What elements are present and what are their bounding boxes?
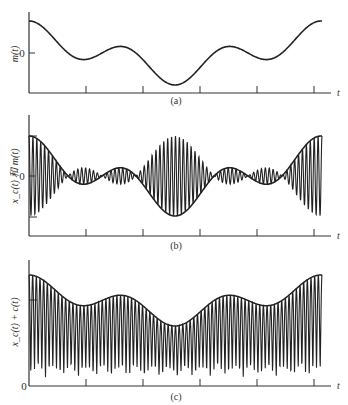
panel-c-zero-label: 0 bbox=[21, 380, 27, 392]
panel-a-zero-label: 0 bbox=[19, 47, 25, 59]
panel-b-caption: (b) bbox=[170, 240, 182, 252]
panel-c: 0 t (c) x_c(t) + c(t) bbox=[9, 260, 340, 403]
panel-a-ylabel: m(t) bbox=[9, 45, 21, 62]
panel-b-zero-label: 0 bbox=[19, 170, 25, 182]
panel-b-x-ticks bbox=[86, 229, 314, 236]
panel-b-ylabel: x_c(t) 和 m(t) bbox=[9, 148, 21, 205]
panel-a-t-label: t bbox=[337, 87, 340, 98]
panel-c-caption: (c) bbox=[170, 391, 181, 403]
panel-b-t-label: t bbox=[337, 230, 340, 241]
panel-a-caption: (a) bbox=[170, 95, 181, 107]
panel-b-modulated-signal bbox=[29, 136, 322, 216]
panel-a-message-curve bbox=[29, 21, 322, 85]
panel-a: 0 t (a) m(t) bbox=[9, 12, 340, 107]
panel-c-x-ticks bbox=[86, 379, 314, 386]
panel-b: 0 t (b) x_c(t) 和 m(t) bbox=[9, 115, 340, 252]
panel-c-ylabel: x_c(t) + c(t) bbox=[9, 297, 21, 348]
panel-a-x-ticks bbox=[86, 86, 314, 93]
panel-c-envelope bbox=[29, 275, 322, 326]
panel-c-t-label: t bbox=[337, 380, 340, 391]
figure: 0 t (a) m(t) 0 t (b) x_c(t) 和 m(t) 0 t (… bbox=[0, 0, 348, 405]
